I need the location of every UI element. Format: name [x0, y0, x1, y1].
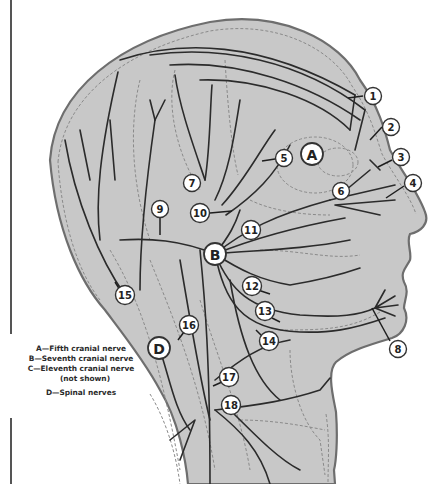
callout-15: 15 [116, 286, 135, 305]
callout-number: 5 [281, 153, 288, 164]
callout-11: 11 [242, 221, 261, 240]
legend-item-spinal: D—Spinal nerves [6, 388, 156, 398]
callout-number: 9 [157, 204, 164, 215]
callout-13: 13 [256, 302, 275, 321]
callout-number: 11 [244, 225, 258, 236]
callout-1: 1 [365, 88, 382, 105]
callout-number: 4 [410, 178, 417, 189]
callout-number: 6 [338, 186, 345, 197]
callout-number: 14 [262, 336, 276, 347]
callout-10: 10 [191, 204, 210, 223]
callout-number: 17 [222, 372, 236, 383]
callout-17: 17 [220, 368, 239, 387]
region-letter: B [210, 247, 221, 263]
callout-number: 16 [182, 320, 196, 331]
callout-number: 2 [388, 122, 395, 133]
callout-4: 4 [405, 175, 422, 192]
callout-16: 16 [180, 316, 199, 335]
callout-number: 1 [370, 91, 377, 102]
region-letter: A [307, 147, 318, 163]
legend-item-eleventh-note: (not shown) [6, 374, 156, 384]
callout-2: 2 [383, 119, 400, 136]
legend: A—Fifth cranial nerve B—Seventh cranial … [6, 344, 156, 398]
callout-7: 7 [184, 175, 201, 192]
callout-14: 14 [260, 332, 279, 351]
callout-number: 8 [395, 344, 402, 355]
callout-12: 12 [243, 277, 262, 296]
callout-9: 9 [152, 201, 169, 218]
callout-number: 12 [245, 281, 259, 292]
callout-number: 13 [258, 306, 272, 317]
callout-number: 18 [224, 400, 238, 411]
callout-6: 6 [333, 183, 350, 200]
legend-item-fifth-cranial: A—Fifth cranial nerve [6, 344, 156, 354]
callout-number: 7 [189, 178, 196, 189]
callout-8: 8 [390, 341, 407, 358]
callout-number: 15 [118, 290, 132, 301]
legend-item-seventh-cranial: B—Seventh cranial nerve [6, 354, 156, 364]
callout-3: 3 [393, 149, 410, 166]
callout-5: 5 [276, 150, 293, 167]
legend-item-eleventh-cranial: C—Eleventh cranial nerve [6, 364, 156, 374]
region-label-A: A [301, 143, 323, 165]
callout-18: 18 [222, 396, 241, 415]
callout-number: 10 [193, 208, 207, 219]
region-label-B: B [204, 243, 226, 265]
head-neck-nerve-diagram: A B D 123456789101112131415161718 [0, 0, 435, 484]
callout-number: 3 [398, 152, 405, 163]
